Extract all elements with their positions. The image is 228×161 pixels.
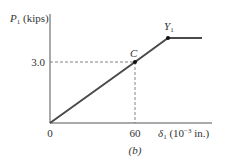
point-c-marker bbox=[133, 60, 137, 64]
y-tick-3: 3.0 bbox=[31, 56, 45, 68]
subfigure-caption: (b) bbox=[129, 144, 142, 157]
point-c-label: C bbox=[130, 47, 138, 59]
load-deflection-chart: P1 (kips) 3.0 0 60 δ1 (10−3 in.) C Y1 (b… bbox=[0, 0, 228, 161]
origin-label: 0 bbox=[47, 127, 53, 139]
x-tick-60: 60 bbox=[130, 127, 142, 139]
point-y1-label: Y1 bbox=[164, 20, 174, 34]
x-axis-label: δ1 (10−3 in.) bbox=[158, 127, 210, 141]
load-deflection-curve bbox=[50, 38, 202, 123]
point-y1-marker bbox=[166, 36, 170, 40]
y-axis-label: P1 (kips) bbox=[9, 12, 49, 26]
